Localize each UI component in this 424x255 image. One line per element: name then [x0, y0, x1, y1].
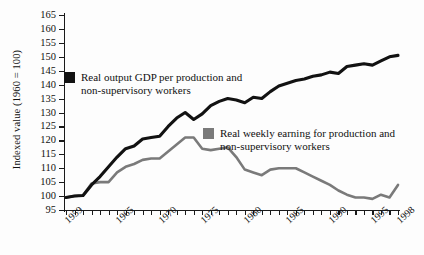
- legend-label-wages: Real weekly earning for production and n…: [220, 127, 395, 152]
- legend-label-gdp: Real output GDP per production and non-s…: [81, 71, 242, 96]
- legend-swatch-wages: [203, 128, 214, 139]
- legend-item-wages: Real weekly earning for production and n…: [203, 127, 418, 152]
- chart-container: Indexed value (1960 = 100) 1651601551501…: [0, 0, 424, 255]
- legend-item-gdp: Real output GDP per production and non-s…: [64, 71, 264, 96]
- legend-swatch-gdp: [64, 72, 75, 83]
